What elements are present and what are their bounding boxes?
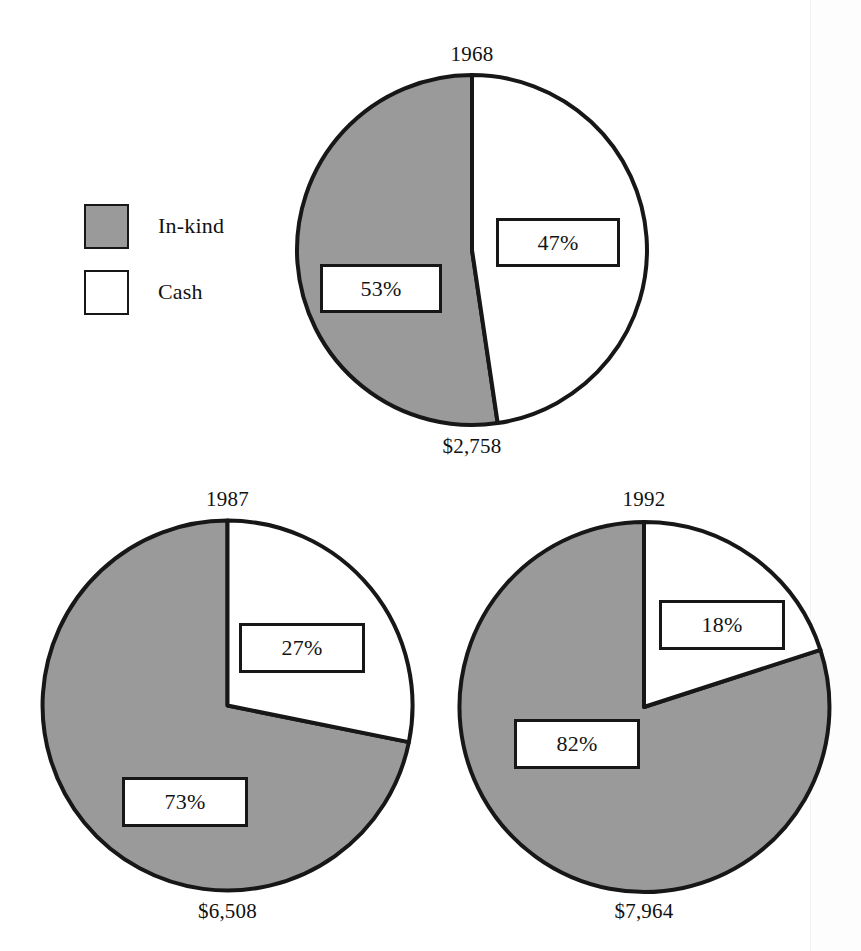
pct-label-in-kind-1968: 53% bbox=[320, 264, 442, 313]
pie-chart-1992: 1992 18% 82% $7,964 bbox=[452, 487, 836, 927]
pct-label-cash-1992: 18% bbox=[659, 600, 785, 650]
pie-total-1992: $7,964 bbox=[452, 899, 836, 924]
legend-item-in-kind: In-kind bbox=[84, 203, 224, 249]
pct-label-cash-1968: 47% bbox=[496, 218, 620, 267]
pie-svg-1987 bbox=[37, 515, 418, 896]
pie-slice-in-kind-1968 bbox=[297, 75, 498, 425]
pie-total-1968: $2,758 bbox=[292, 434, 652, 459]
pct-label-in-kind-1987: 73% bbox=[122, 777, 248, 827]
in-kind-swatch-icon bbox=[84, 204, 129, 249]
pie-title-1968: 1968 bbox=[292, 42, 652, 67]
pct-label-in-kind-1992: 82% bbox=[514, 719, 640, 769]
pie-total-1987: $6,508 bbox=[37, 899, 418, 924]
pie-chart-1987: 1987 27% 73% $6,508 bbox=[37, 487, 418, 927]
pie-title-1992: 1992 bbox=[452, 487, 836, 512]
pie-svg-1992 bbox=[452, 515, 836, 899]
legend-label-cash: Cash bbox=[158, 279, 203, 305]
legend-item-cash: Cash bbox=[84, 269, 224, 315]
pie-chart-1968: 1968 53% 47% $2,758 bbox=[292, 42, 652, 462]
legend-label-in-kind: In-kind bbox=[158, 213, 224, 239]
pct-label-cash-1987: 27% bbox=[239, 623, 365, 673]
cash-swatch-icon bbox=[84, 270, 129, 315]
pie-title-1987: 1987 bbox=[37, 487, 418, 512]
legend: In-kind Cash bbox=[84, 203, 224, 335]
